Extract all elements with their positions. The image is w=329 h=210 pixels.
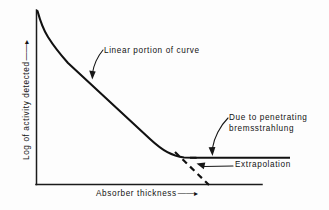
annotation-linear-portion-line-1: Linear portion of curve	[104, 46, 200, 55]
figure-graphics	[0, 0, 329, 210]
extrapolation-leader-line	[204, 166, 233, 167]
y-axis-label-arrow-icon: ——▸	[22, 40, 33, 60]
bremsstrahlung-arrowhead	[209, 147, 216, 156]
x-axis-label-text: Absorber thickness	[96, 189, 177, 198]
y-axis-label-text: Log of activity detected	[22, 61, 31, 160]
linear-portion-leader-line	[93, 50, 104, 73]
x-axis-label: Absorber thickness——▸	[96, 189, 198, 200]
y-axis-label-wrapper: Log of activity detected——▸	[22, 25, 36, 175]
y-axis-label: Log of activity detected——▸	[22, 25, 33, 175]
annotation-bremsstrahlung-line-2: bremsstrahlung	[229, 124, 308, 135]
annotation-extrapolation: Extrapolation	[235, 160, 291, 171]
extrapolation-arrowhead	[197, 163, 206, 170]
annotation-linear-portion: Linear portion of curve	[104, 46, 200, 57]
absorption-curve	[38, 11, 197, 158]
annotation-bremsstrahlung: Due to penetrating bremsstrahlung	[229, 113, 308, 134]
linear-portion-arrowhead	[89, 71, 96, 80]
annotation-bremsstrahlung-line-1: Due to penetrating	[229, 113, 308, 124]
x-axis-label-arrow-icon: ——▸	[178, 189, 198, 200]
figure-container: Log of activity detected——▸ Absorber thi…	[0, 0, 329, 210]
annotation-extrapolation-line-1: Extrapolation	[235, 160, 291, 169]
bremsstrahlung-leader-line	[213, 118, 229, 148]
